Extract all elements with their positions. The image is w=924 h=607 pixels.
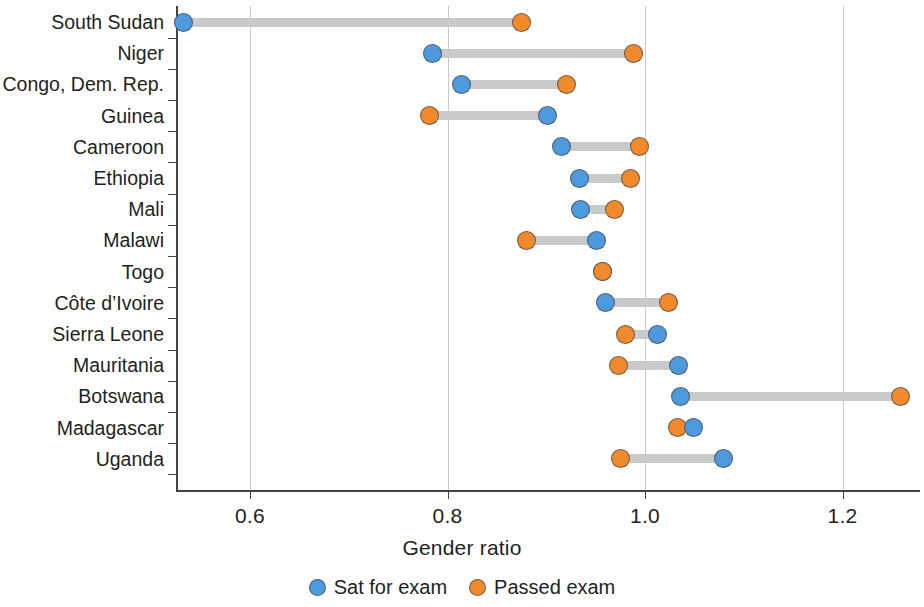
x-tick-0.6 [250,492,251,499]
data-point-passed-exam [512,13,531,32]
circle-blue-icon [309,579,326,596]
x-axis-title: Gender ratio [0,536,924,560]
x-tick-label: 0.6 [210,504,290,528]
data-point-passed-exam [630,137,649,156]
plot-area: 0.60.81.01.2South SudanNigerCongo, Dem. … [0,0,924,607]
data-point-sat-for-exam [538,106,557,125]
category-label-botswana: Botswana [0,387,164,407]
x-tick-1.0 [645,492,646,499]
y-tick [168,412,176,413]
data-point-passed-exam [605,200,624,219]
category-label-malawi: Malawi [0,231,164,251]
category-label-sierra-leone: Sierra Leone [0,325,164,345]
data-point-sat-for-exam [596,293,615,312]
y-tick [168,225,176,226]
category-label-south-sudan: South Sudan [0,13,164,33]
connector-line [527,236,597,245]
data-point-sat-for-exam [571,200,590,219]
connector-line [681,392,901,401]
y-axis-line [176,6,178,490]
data-point-sat-for-exam [684,418,703,437]
y-tick [168,287,176,288]
data-point-sat-for-exam [174,13,193,32]
category-label-cameroon: Cameroon [0,138,164,158]
data-point-sat-for-exam [552,137,571,156]
connector-line [184,18,522,27]
data-point-sat-for-exam [423,44,442,63]
data-point-sat-for-exam [671,387,690,406]
gridline-x-0.6 [250,6,251,490]
y-tick [168,194,176,195]
gridline-x-0.8 [448,6,449,490]
data-point-passed-exam [624,44,643,63]
legend-item-sat-for-exam[interactable]: Sat for exam [309,576,447,599]
category-label-mauritania: Mauritania [0,356,164,376]
data-point-passed-exam [420,106,439,125]
data-point-sat-for-exam [452,75,471,94]
data-point-sat-for-exam [570,169,589,188]
chart-legend: Sat for examPassed exam [0,576,924,599]
x-axis-line [176,490,920,492]
data-point-passed-exam [557,75,576,94]
x-tick-label: 1.0 [605,504,685,528]
data-point-sat-for-exam [669,356,688,375]
legend-label: Sat for exam [334,576,447,599]
category-label-ethiopia: Ethiopia [0,169,164,189]
connector-line [561,142,639,151]
gridline-x-1.0 [645,6,646,490]
connector-line [430,111,548,120]
data-point-passed-exam [611,449,630,468]
x-tick-label: 0.8 [408,504,488,528]
category-label-c-te-d-ivoire: Côte d’Ivoire [0,294,164,314]
data-point-passed-exam [891,387,910,406]
y-tick [168,131,176,132]
x-tick-1.2 [843,492,844,499]
category-label-madagascar: Madagascar [0,419,164,439]
data-point-passed-exam [621,169,640,188]
data-point-passed-exam [593,262,612,281]
data-point-sat-for-exam [714,449,733,468]
category-label-guinea: Guinea [0,107,164,127]
x-tick-0.8 [448,492,449,499]
x-tick-label: 1.2 [803,504,883,528]
y-tick [168,38,176,39]
y-tick [168,350,176,351]
category-label-togo: Togo [0,263,164,283]
category-label-niger: Niger [0,44,164,64]
category-label-congo-dem-rep: Congo, Dem. Rep. [0,75,164,95]
data-point-passed-exam [609,356,628,375]
y-tick [168,318,176,319]
data-point-sat-for-exam [648,325,667,344]
y-tick [168,443,176,444]
category-label-mali: Mali [0,200,164,220]
connector-line [461,80,567,89]
data-point-passed-exam [659,293,678,312]
connector-line [620,454,723,463]
y-tick [168,256,176,257]
gridline-x-1.2 [843,6,844,490]
data-point-sat-for-exam [587,231,606,250]
gender-ratio-dumbbell-chart: 0.60.81.01.2South SudanNigerCongo, Dem. … [0,0,924,607]
data-point-passed-exam [616,325,635,344]
category-label-uganda: Uganda [0,450,164,470]
legend-item-passed-exam[interactable]: Passed exam [469,576,615,599]
circle-orange-icon [469,579,486,596]
y-tick [168,100,176,101]
legend-label: Passed exam [494,576,615,599]
connector-line [433,49,633,58]
data-point-passed-exam [517,231,536,250]
y-tick [168,474,176,475]
y-tick [168,381,176,382]
y-tick [168,162,176,163]
y-tick [168,69,176,70]
